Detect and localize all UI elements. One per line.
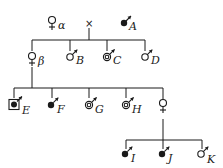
male-D: D bbox=[142, 50, 160, 67]
female-icon bbox=[49, 17, 56, 31]
male-B: B bbox=[67, 50, 84, 67]
male-H: H bbox=[122, 97, 142, 116]
label-C: C bbox=[113, 54, 122, 67]
male-C: C bbox=[103, 49, 122, 67]
male-I: I bbox=[122, 147, 136, 165]
female-icon bbox=[29, 53, 36, 67]
male-K: K bbox=[198, 147, 216, 166]
label-E: E bbox=[21, 104, 30, 117]
female-unnamed bbox=[160, 100, 167, 114]
label-K: K bbox=[206, 153, 216, 166]
label-H: H bbox=[131, 103, 142, 116]
male-F: F bbox=[48, 98, 65, 116]
label-B: B bbox=[75, 54, 84, 67]
label-A: A bbox=[128, 20, 137, 33]
label-J: J bbox=[166, 152, 173, 165]
label-D: D bbox=[150, 54, 160, 67]
male-boxed-filled-icon bbox=[9, 97, 22, 110]
female-alpha: α bbox=[49, 17, 67, 33]
female-beta: β bbox=[29, 53, 45, 69]
label-I: I bbox=[130, 152, 136, 165]
male-G: G bbox=[85, 97, 104, 116]
male-A: A bbox=[121, 16, 137, 33]
male-E: E bbox=[9, 97, 30, 118]
label-F: F bbox=[56, 103, 65, 116]
cross-symbol: × bbox=[85, 18, 93, 29]
male-J: J bbox=[159, 147, 173, 165]
label-G: G bbox=[95, 103, 104, 116]
label-beta: β bbox=[37, 55, 44, 68]
female-icon bbox=[160, 100, 167, 114]
label-alpha: α bbox=[58, 19, 66, 32]
pedigree-diagram: α × A β B C bbox=[0, 0, 223, 168]
